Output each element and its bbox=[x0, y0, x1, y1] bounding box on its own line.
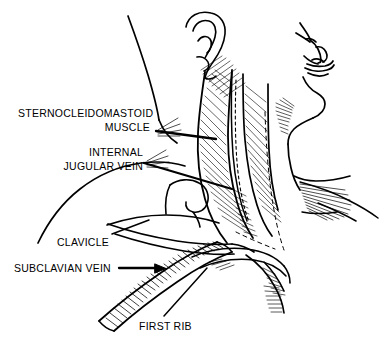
label-first-rib: FIRST RIB bbox=[139, 320, 192, 334]
label-clavicle-line1: CLAVICLE bbox=[57, 236, 109, 250]
label-sternocleidomastoid-line1: STERNOCLEIDOMASTOID bbox=[18, 107, 150, 121]
label-internal-jugular-vein: INTERNAL JUGULAR VEIN bbox=[18, 146, 143, 173]
label-sternocleidomastoid: STERNOCLEIDOMASTOID MUSCLE bbox=[18, 107, 150, 134]
label-subclavian-vein: SUBCLAVIAN VEIN bbox=[14, 262, 111, 276]
label-subclavian-vein-line1: SUBCLAVIAN VEIN bbox=[14, 262, 111, 276]
anatomy-figure: STERNOCLEIDOMASTOID MUSCLE INTERNAL JUGU… bbox=[0, 0, 387, 346]
figure-background bbox=[0, 0, 387, 346]
label-internal-jugular-line1: INTERNAL bbox=[18, 146, 143, 160]
label-internal-jugular-line2: JUGULAR VEIN bbox=[18, 160, 143, 174]
label-sternocleidomastoid-line2: MUSCLE bbox=[18, 121, 150, 135]
label-clavicle: CLAVICLE bbox=[57, 236, 109, 250]
anatomy-line-art bbox=[0, 0, 387, 346]
label-first-rib-line1: FIRST RIB bbox=[139, 320, 192, 334]
